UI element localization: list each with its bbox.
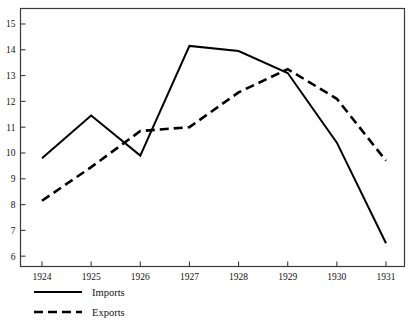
x-tick-label: 1924 bbox=[33, 272, 52, 282]
x-tick-label: 1931 bbox=[377, 272, 396, 282]
chart-svg: 6789101112131415 19241925192619271928192… bbox=[0, 0, 418, 324]
line-chart: 6789101112131415 19241925192619271928192… bbox=[0, 0, 418, 324]
legend-label-imports: Imports bbox=[92, 287, 125, 298]
x-tick-label: 1928 bbox=[229, 272, 248, 282]
y-tick-label: 14 bbox=[6, 45, 16, 55]
x-tick-label: 1929 bbox=[278, 272, 297, 282]
y-tick-label: 7 bbox=[11, 226, 16, 236]
y-tick-label: 6 bbox=[11, 252, 16, 262]
y-tick-label: 12 bbox=[6, 97, 16, 107]
legend-label-exports: Exports bbox=[92, 307, 125, 318]
x-tick-label: 1927 bbox=[180, 272, 199, 282]
y-tick-label: 8 bbox=[11, 200, 16, 210]
y-tick-label: 9 bbox=[11, 174, 16, 184]
x-tick-label: 1925 bbox=[82, 272, 101, 282]
y-tick-label: 13 bbox=[6, 71, 16, 81]
y-tick-label: 15 bbox=[6, 19, 16, 29]
y-tick-label: 11 bbox=[6, 123, 15, 133]
y-tick-label: 10 bbox=[6, 148, 16, 158]
x-tick-label: 1930 bbox=[327, 272, 346, 282]
x-tick-label: 1926 bbox=[131, 272, 150, 282]
